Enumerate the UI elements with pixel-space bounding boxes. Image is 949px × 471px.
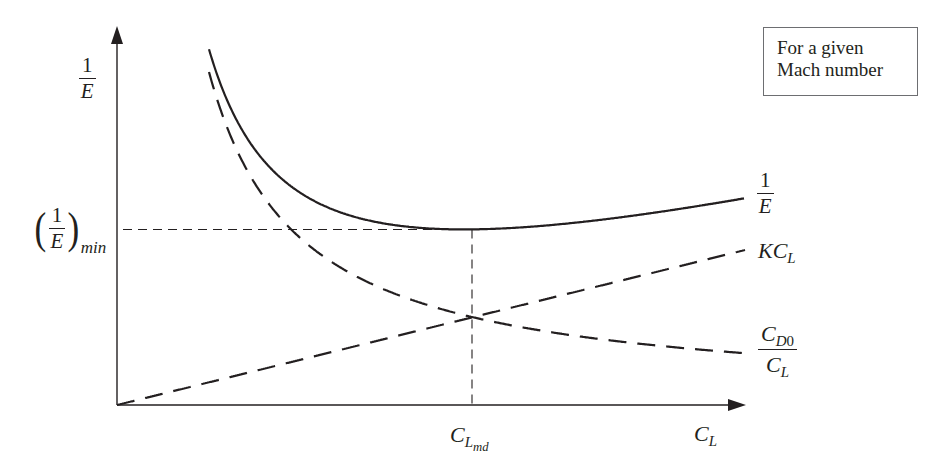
parasite-drag-curve xyxy=(209,72,745,353)
parasite-label-den-main: C xyxy=(766,352,781,377)
note-line-1: For a given xyxy=(777,37,917,59)
y-axis-arrow-icon xyxy=(111,26,123,44)
parasite-label-den-sub: L xyxy=(781,364,789,380)
parasite-label-num-sub: D xyxy=(776,333,787,349)
y-tick-denominator: E xyxy=(50,229,63,252)
total-curve-label: 1 E xyxy=(757,170,774,217)
open-paren: ( xyxy=(34,207,46,251)
induced-drag-curve xyxy=(117,250,745,405)
x-tick-main: C xyxy=(450,422,465,447)
note-line-2: Mach number xyxy=(777,59,917,81)
total-inverse-efficiency-curve xyxy=(209,49,744,229)
mach-number-note-box: For a given Mach number xyxy=(763,27,918,96)
x-axis-label-main: C xyxy=(694,421,709,446)
y-tick-min-label: ( 1 E ) min xyxy=(33,205,106,252)
total-label-numerator: 1 xyxy=(757,170,774,193)
induced-curve-label: KCL xyxy=(758,240,796,262)
total-label-denominator: E xyxy=(759,194,772,217)
y-axis-label-numerator: 1 xyxy=(79,55,96,78)
x-tick-clmd-label: CLmd xyxy=(450,424,489,448)
y-axis-label: 1 E xyxy=(79,55,96,102)
x-tick-sub: L xyxy=(465,434,473,450)
x-axis-label-sub: L xyxy=(709,433,717,449)
y-tick-numerator: 1 xyxy=(49,205,66,228)
x-axis-arrow-icon xyxy=(728,399,746,411)
x-axis-label: CL xyxy=(694,423,717,445)
parasite-label-num-subsub: 0 xyxy=(787,333,794,349)
induced-label-main: KC xyxy=(758,238,787,263)
parasite-curve-label: CD0 CL xyxy=(758,323,797,376)
x-tick-subsub: md xyxy=(473,441,489,455)
induced-label-sub: L xyxy=(787,250,795,266)
y-axis-label-denominator: E xyxy=(81,79,94,102)
close-paren: ) xyxy=(68,207,80,251)
parasite-label-num-main: C xyxy=(761,321,776,346)
y-tick-subscript: min xyxy=(81,239,107,256)
